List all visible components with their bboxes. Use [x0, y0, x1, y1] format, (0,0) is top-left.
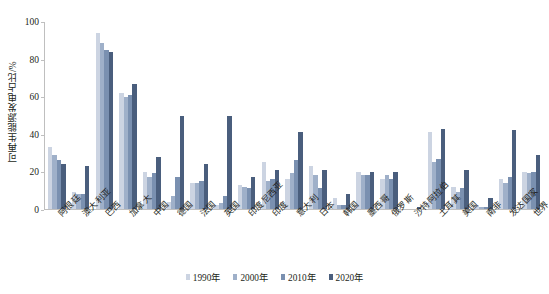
- renewable-share-bar-chart: 可再生能源发电占比/% 020406080100 阿根廷澳大利亚巴西加拿大中国德…: [0, 0, 549, 294]
- bar-group: [187, 22, 211, 209]
- legend-label: 1990年: [193, 270, 221, 284]
- bar-group: [448, 22, 472, 209]
- bar-groups: [45, 22, 543, 209]
- legend-swatch-icon: [233, 274, 237, 280]
- legend-label: 2020年: [336, 270, 364, 284]
- bar-group: [211, 22, 235, 209]
- bar-group: [164, 22, 188, 209]
- bar: [298, 132, 302, 209]
- legend-swatch-icon: [329, 274, 333, 280]
- y-axis-title: 可再生能源发电占比/%: [6, 24, 20, 200]
- bar-group: [377, 22, 401, 209]
- legend-item[interactable]: 2000年: [233, 270, 268, 284]
- bar: [441, 129, 445, 209]
- plot-area: 020406080100: [44, 22, 543, 210]
- bar: [180, 116, 184, 210]
- bar-group: [401, 22, 425, 209]
- bar: [109, 52, 113, 209]
- y-tick-label: 60: [30, 92, 40, 102]
- legend-item[interactable]: 1990年: [186, 270, 221, 284]
- bar: [227, 116, 231, 210]
- bar-group: [116, 22, 140, 209]
- legend-item[interactable]: 2010年: [281, 270, 316, 284]
- bar-group: [69, 22, 93, 209]
- bar-group: [140, 22, 164, 209]
- y-tick-label: 20: [30, 167, 40, 177]
- bar: [536, 155, 540, 209]
- y-tick-label: 40: [30, 130, 40, 140]
- y-tick-mark: [41, 22, 44, 23]
- legend-label: 2000年: [240, 270, 268, 284]
- bar-group: [496, 22, 520, 209]
- legend-swatch-icon: [281, 274, 285, 280]
- bar-group: [45, 22, 69, 209]
- legend-swatch-icon: [186, 274, 190, 280]
- y-tick-mark: [41, 210, 44, 211]
- bar-group: [306, 22, 330, 209]
- y-tick-mark: [41, 97, 44, 98]
- legend-item[interactable]: 2020年: [329, 270, 364, 284]
- y-tick-mark: [41, 135, 44, 136]
- bar-group: [92, 22, 116, 209]
- y-tick-label: 0: [34, 205, 39, 215]
- y-tick-mark: [41, 172, 44, 173]
- x-axis-labels: 阿根廷澳大利亚巴西加拿大中国德国法国英国印度尼西亚印度意大利日本韩国墨西哥俄罗斯…: [44, 212, 543, 270]
- bar-group: [353, 22, 377, 209]
- bar-group: [282, 22, 306, 209]
- bar-group: [235, 22, 259, 209]
- y-tick-mark: [41, 60, 44, 61]
- bar-group: [519, 22, 543, 209]
- legend-label: 2010年: [288, 270, 316, 284]
- y-tick-label: 100: [25, 17, 39, 27]
- bar-group: [472, 22, 496, 209]
- y-tick-label: 80: [30, 55, 40, 65]
- chart-legend: 1990年2000年2010年2020年: [0, 270, 549, 284]
- bar: [132, 84, 136, 209]
- bar-group: [330, 22, 354, 209]
- bar: [512, 130, 516, 209]
